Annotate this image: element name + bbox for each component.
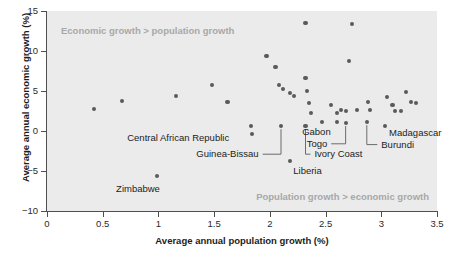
x-tick-mark xyxy=(47,212,48,217)
x-axis-line xyxy=(46,211,438,212)
label-leader-line xyxy=(367,125,377,144)
data-point xyxy=(309,111,313,115)
x-tick-mark xyxy=(158,212,159,217)
data-point xyxy=(329,103,333,107)
data-point xyxy=(303,76,307,80)
y-tick-label: −10 xyxy=(0,206,38,216)
point-label: Guinea-Bissau xyxy=(196,148,258,159)
x-tick-label: 0.5 xyxy=(88,219,118,229)
quadrant-note-bottom-right: Population growth > economic growth xyxy=(256,191,429,202)
x-tick-label: 1.5 xyxy=(199,219,229,229)
data-point xyxy=(414,101,418,105)
data-point xyxy=(335,111,339,115)
x-tick-label: 3.5 xyxy=(422,219,449,229)
point-label: Liberia xyxy=(293,165,322,176)
y-axis-line xyxy=(46,11,47,212)
label-leader-line xyxy=(263,129,281,154)
y-tick-mark xyxy=(41,171,46,172)
data-point xyxy=(92,107,96,111)
point-label: Zimbabwe xyxy=(116,183,160,194)
x-axis-title: Average annual population growth (%) xyxy=(47,235,437,246)
plot-leader-lines xyxy=(47,11,437,211)
x-tick-label: 2 xyxy=(255,219,285,229)
scatter-chart-figure: Economic growth > population growth Popu… xyxy=(0,0,449,260)
quadrant-note-top-left: Economic growth > population growth xyxy=(61,25,234,36)
data-point-labeled xyxy=(383,124,387,128)
point-label: Central African Republic xyxy=(127,132,229,143)
data-point xyxy=(307,101,311,105)
x-tick-mark xyxy=(103,212,104,217)
x-tick-mark xyxy=(381,212,382,217)
data-point xyxy=(393,109,397,113)
x-tick-label: 2.5 xyxy=(311,219,341,229)
y-axis-title: Average annual economic growth (%) xyxy=(20,0,31,198)
y-tick-mark xyxy=(41,11,46,12)
x-tick-label: 1 xyxy=(143,219,173,229)
x-tick-mark xyxy=(270,212,271,217)
point-label: Gabon xyxy=(302,126,331,137)
data-point xyxy=(305,89,309,93)
plot-area: Economic growth > population growth Popu… xyxy=(47,11,437,211)
x-tick-label: 3 xyxy=(366,219,396,229)
data-point xyxy=(404,90,408,94)
label-leader-line xyxy=(331,126,345,144)
data-point xyxy=(273,65,277,69)
x-tick-mark xyxy=(326,212,327,217)
x-tick-label: 0 xyxy=(32,219,62,229)
data-point xyxy=(264,54,268,58)
x-tick-mark xyxy=(437,212,438,217)
y-tick-mark xyxy=(41,131,46,132)
y-tick-mark xyxy=(41,211,46,212)
data-point xyxy=(303,21,307,25)
point-label: Ivory Coast xyxy=(314,148,362,159)
data-point-labeled xyxy=(344,121,348,125)
y-tick-mark xyxy=(41,51,46,52)
point-label: Madagascar xyxy=(389,127,441,138)
data-point xyxy=(390,103,394,107)
x-tick-mark xyxy=(214,212,215,217)
y-tick-mark xyxy=(41,91,46,92)
data-point xyxy=(225,100,229,104)
point-label: Togo xyxy=(307,138,328,149)
data-point xyxy=(344,109,348,113)
point-label: Burundi xyxy=(381,139,414,150)
